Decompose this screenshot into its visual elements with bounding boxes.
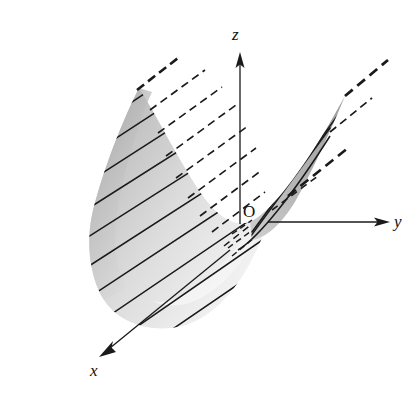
axis-label-x: x <box>90 362 98 379</box>
axis-label-z: z <box>232 26 239 43</box>
right-wing-rulings-visible <box>248 96 352 240</box>
origin-label: O <box>243 203 255 220</box>
axis-y <box>268 218 390 227</box>
left-wing-top-edge-dashed <box>137 58 178 90</box>
axis-label-y: y <box>394 213 402 230</box>
axis-z <box>236 52 245 224</box>
axis-x-arrowhead <box>99 341 116 357</box>
surface-diagram-svg <box>0 0 420 400</box>
right-wing-top-edge-dashed <box>345 60 388 96</box>
figure-canvas: O z y x <box>0 0 420 400</box>
